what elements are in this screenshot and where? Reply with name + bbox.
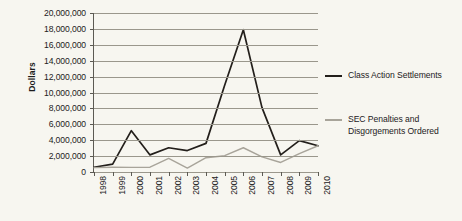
legend-item: Class Action Settlements	[325, 70, 442, 82]
legend-label: Class Action Settlements	[348, 70, 442, 82]
x-axis-tick	[318, 172, 319, 176]
y-axis-tick	[90, 93, 94, 94]
legend-item: SEC Penalties and Disgorgements Ordered	[325, 114, 439, 137]
y-axis-tick	[90, 61, 94, 62]
y-axis-tick-label: 0	[81, 167, 86, 177]
y-axis-tick-label: 2,000,000	[49, 151, 86, 161]
x-axis-tick-label: 1999	[117, 176, 127, 195]
plot-area	[94, 13, 318, 172]
grid-line	[94, 93, 318, 94]
grid-line	[94, 13, 318, 14]
y-axis-tick-label: 14,000,000	[44, 56, 86, 66]
x-axis-tick-label: 2007	[266, 176, 276, 195]
x-axis-tick-label: 2005	[229, 176, 239, 195]
line-chart: Dollars 02,000,0004,000,0006,000,0008,00…	[0, 0, 462, 221]
series-line	[94, 30, 318, 168]
y-axis-tick-label: 10,000,000	[44, 88, 86, 98]
y-axis-tick-label: 6,000,000	[49, 119, 86, 129]
x-axis-tick-label: 2006	[247, 176, 257, 195]
grid-line	[94, 45, 318, 46]
y-axis-tick	[90, 124, 94, 125]
y-axis-tick-label: 12,000,000	[44, 72, 86, 82]
y-axis-tick	[90, 108, 94, 109]
y-axis-tick-label: 16,000,000	[44, 40, 86, 50]
x-axis-tick-label: 2003	[191, 176, 201, 195]
y-axis-tick-labels: 02,000,0004,000,0006,000,0008,000,00010,…	[0, 0, 92, 221]
x-axis-tick-label: 2001	[154, 176, 164, 195]
grid-line	[94, 124, 318, 125]
y-axis-tick-label: 18,000,000	[44, 24, 86, 34]
y-axis-tick-label: 8,000,000	[49, 103, 86, 113]
y-axis-tick-label: 4,000,000	[49, 135, 86, 145]
legend-label: SEC Penalties and Disgorgements Ordered	[348, 114, 439, 137]
y-axis-tick	[90, 140, 94, 141]
y-axis-tick	[90, 77, 94, 78]
grid-line	[94, 61, 318, 62]
x-axis-tick-label: 2009	[303, 176, 313, 195]
y-axis-tick	[90, 156, 94, 157]
legend-swatch-icon	[325, 75, 342, 77]
x-axis-tick-label: 2010	[322, 176, 332, 195]
x-axis-tick-label: 2002	[173, 176, 183, 195]
x-axis-tick-label: 1998	[98, 176, 108, 195]
x-axis-tick-label: 2008	[285, 176, 295, 195]
grid-line	[94, 156, 318, 157]
x-axis-tick-labels: 1998199920002001200220032004200520062007…	[94, 176, 318, 221]
y-axis-tick	[90, 13, 94, 14]
legend-swatch-icon	[325, 119, 342, 121]
x-axis-tick-label: 2004	[210, 176, 220, 195]
grid-line	[94, 29, 318, 30]
grid-line	[94, 140, 318, 141]
y-axis-tick	[90, 29, 94, 30]
y-axis-tick-label: 20,000,000	[44, 8, 86, 18]
grid-line	[94, 108, 318, 109]
y-axis-tick	[90, 45, 94, 46]
x-axis-tick-label: 2000	[135, 176, 145, 195]
grid-line	[94, 77, 318, 78]
